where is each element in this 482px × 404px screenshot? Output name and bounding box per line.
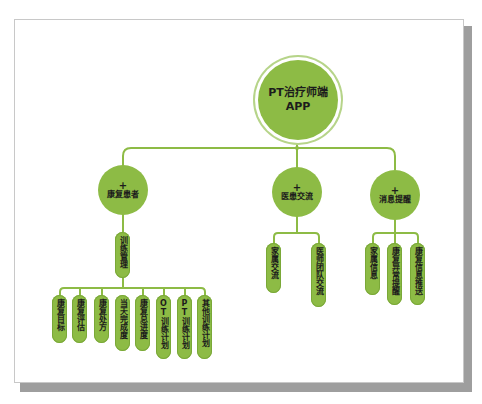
leaf-label: 康复总进度 xyxy=(138,299,147,339)
expand-plus-icon[interactable]: + xyxy=(293,183,301,192)
leaf-label: 家属交流 xyxy=(269,247,278,279)
leaf-node[interactable]: 医师团队交流 xyxy=(311,243,326,307)
leaf-label: 康复评估 xyxy=(75,299,84,331)
leaf-node[interactable]: 康复信息推送 xyxy=(410,243,425,305)
leaf-node[interactable]: 康复总进度 xyxy=(135,295,150,351)
category-label: 医患交流 xyxy=(281,192,313,202)
leaf-node[interactable]: 康复异常提醒 xyxy=(387,243,402,305)
root-title: PT治疗师端 xyxy=(268,86,328,100)
leaf-label: 当天完成度 xyxy=(118,299,127,339)
root-node[interactable]: PT治疗师端 APP xyxy=(258,60,338,140)
leaf-label: OT训练计划 xyxy=(159,299,168,349)
expand-plus-icon[interactable]: + xyxy=(391,186,399,195)
expand-plus-icon[interactable]: + xyxy=(119,181,127,190)
category-label: 消息提醒 xyxy=(379,195,411,205)
leaf-node[interactable]: OT训练计划 xyxy=(156,295,171,359)
leaf-label: 康复信息推送 xyxy=(413,247,422,295)
leaf-label: 医师团队交流 xyxy=(314,247,323,295)
leaf-label: PT训练计划 xyxy=(180,299,189,349)
leaf-node[interactable]: 康复处方 xyxy=(94,295,109,343)
leaf-label: 其他训练计划 xyxy=(200,299,209,347)
leaf-node[interactable]: 家属交流 xyxy=(266,243,281,293)
root-subtitle: APP xyxy=(268,100,328,114)
leaf-node[interactable]: 康复目标 xyxy=(52,295,67,343)
leaf-node[interactable]: 其他训练计划 xyxy=(197,295,212,359)
category-label: 康复患者 xyxy=(107,190,139,200)
category-node-communication[interactable]: + 医患交流 xyxy=(272,167,322,217)
leaf-label: 康复异常提醒 xyxy=(390,247,399,295)
leaf-label: 康复目标 xyxy=(55,299,64,331)
leaf-node[interactable]: PT训练计划 xyxy=(177,295,192,359)
leaf-node[interactable]: 家属信息 xyxy=(365,243,380,295)
subcategory-node-training[interactable]: 训练管理 xyxy=(115,232,130,278)
subcategory-label: 训练管理 xyxy=(118,236,127,268)
leaf-node[interactable]: 当天完成度 xyxy=(115,295,130,351)
category-node-notifications[interactable]: + 消息提醒 xyxy=(370,170,420,220)
leaf-node[interactable]: 康复评估 xyxy=(72,295,87,343)
leaf-label: 康复处方 xyxy=(97,299,106,331)
category-node-patients[interactable]: + 康复患者 xyxy=(98,165,148,215)
leaf-label: 家属信息 xyxy=(368,247,377,279)
